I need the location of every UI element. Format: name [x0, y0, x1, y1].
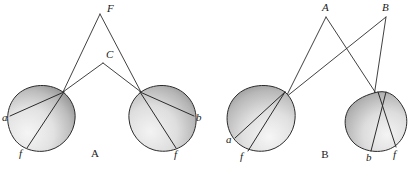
panel-label-a: A	[91, 147, 99, 159]
panel-a-rays	[63, 14, 141, 92]
a-right-label-f: f	[174, 148, 179, 160]
a-left-label-a: a	[2, 111, 8, 123]
b-left-circle: a f	[226, 85, 295, 162]
a-right-label-b: b	[196, 111, 202, 123]
ray-A-to-right-node	[326, 17, 381, 101]
apex-label-F: F	[106, 2, 114, 14]
a-right-circle-outline	[129, 85, 196, 151]
panel-label-b: B	[321, 148, 328, 160]
b-right-circle-outline	[345, 92, 407, 152]
apex-label-C: C	[106, 48, 114, 60]
b-left-label-f: f	[240, 150, 245, 162]
apex-label-A: A	[321, 1, 329, 13]
figure-container: a f b f F C A	[0, 0, 419, 169]
ray-B-to-left-node	[276, 17, 386, 105]
a-left-label-f: f	[19, 147, 24, 159]
ray-A-to-left-node	[283, 17, 326, 103]
panel-b-rays	[276, 17, 386, 105]
a-left-circle: a f	[2, 85, 75, 159]
b-left-label-a: a	[226, 133, 232, 145]
apex-label-B: B	[382, 1, 389, 13]
optics-diagram-svg: a f b f F C A	[0, 0, 419, 169]
b-left-circle-outline	[227, 85, 295, 151]
a-right-circle: b f	[129, 85, 202, 160]
ray-B-to-right-node	[373, 17, 386, 103]
panel-a: a f b f F C A	[2, 2, 202, 160]
b-right-label-f: f	[393, 148, 398, 160]
panel-b: a f b f A B B	[226, 1, 407, 163]
b-right-circle: b f	[345, 92, 407, 163]
ray-F-to-left-node	[63, 14, 100, 92]
ray-C-to-right-node	[103, 63, 141, 92]
b-right-label-b: b	[366, 151, 372, 163]
ray-C-to-left-node	[63, 63, 103, 92]
a-left-circle-outline	[8, 85, 75, 151]
